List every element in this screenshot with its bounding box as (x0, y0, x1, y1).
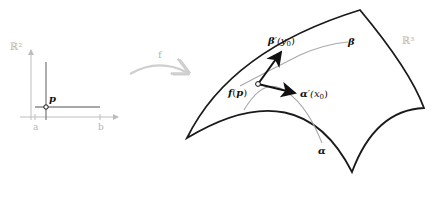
tick-b-label: b (98, 122, 104, 132)
label-alpha-prime: α′(x0) (300, 88, 328, 101)
domain-plane: ℝ² p a b (10, 41, 118, 132)
point-p-label: p (49, 93, 56, 104)
curve-beta (240, 42, 348, 86)
label-beta: β (347, 36, 355, 47)
vector-beta-prime (258, 52, 281, 84)
label-beta-prime-close: ) (291, 35, 295, 46)
tick-a-label: a (33, 122, 39, 132)
r2-label: ℝ² (10, 41, 22, 52)
label-fp: f(p) (227, 87, 247, 98)
label-alpha-prime-close: ) (324, 88, 328, 99)
label-beta-prime-arg: ′(y (275, 35, 287, 46)
map-label-f: f (158, 49, 163, 60)
surface: ℝ³ f(p) β′(y0) α′(x0) β α (187, 10, 424, 172)
label-beta-prime: β′(y0) (267, 35, 295, 48)
label-alpha: α (318, 145, 326, 156)
label-fp-close: ) (243, 87, 247, 98)
point-fp (256, 82, 261, 87)
surface-mapping-diagram: ℝ² p a b f ℝ³ f(p) β′(y0) (0, 0, 436, 221)
label-alpha-prime-arg: ′(x (308, 88, 320, 99)
map-arrow: f (130, 49, 186, 74)
r3-label: ℝ³ (402, 35, 414, 46)
label-fp-p: p (236, 87, 243, 98)
point-p (44, 105, 48, 109)
map-arrow-curve (130, 65, 186, 74)
